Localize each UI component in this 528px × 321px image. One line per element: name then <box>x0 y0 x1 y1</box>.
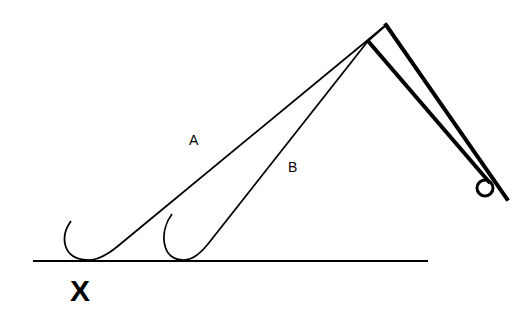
string-b <box>164 41 368 260</box>
pendulum-diagram: A B X <box>0 0 528 321</box>
label-x: X <box>70 274 90 307</box>
inner-rod <box>368 41 490 183</box>
string-a <box>65 25 386 260</box>
label-b: B <box>288 159 297 175</box>
pendulum-bob <box>477 180 493 196</box>
label-a: A <box>189 132 199 148</box>
outer-rod <box>386 25 507 199</box>
top-connector <box>368 25 386 41</box>
